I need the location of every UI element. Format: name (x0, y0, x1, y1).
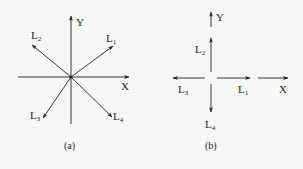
vector-diagram: Y X L1 L2 L3 L4 (a) Y X L2 L3 L1 L4 (b) (0, 0, 303, 169)
label-l2-a: L2 (31, 29, 42, 43)
figure-b: Y X L2 L3 L1 L4 (b) (173, 11, 288, 152)
figure-a: Y X L1 L2 L3 L4 (a) (18, 16, 129, 152)
y-label-b: Y (216, 11, 224, 23)
vector-l1-a (71, 46, 113, 77)
origin-a (69, 75, 72, 78)
vector-l4-a (71, 77, 112, 117)
caption-a: (a) (64, 140, 75, 152)
caption-b: (b) (205, 140, 217, 152)
label-l4-b: L4 (205, 118, 216, 132)
label-l3-a: L3 (30, 109, 41, 123)
label-l2-b: L2 (195, 43, 206, 57)
label-l1-b: L1 (238, 83, 249, 97)
label-l4-a: L4 (113, 110, 124, 124)
label-l1-a: L1 (106, 32, 117, 46)
vector-l2-a (32, 45, 71, 77)
vector-l3-a (43, 77, 71, 118)
x-label-a: X (121, 80, 129, 92)
label-l3-b: L3 (178, 83, 189, 97)
x-label-b: X (279, 83, 287, 95)
y-label-a: Y (76, 16, 84, 28)
